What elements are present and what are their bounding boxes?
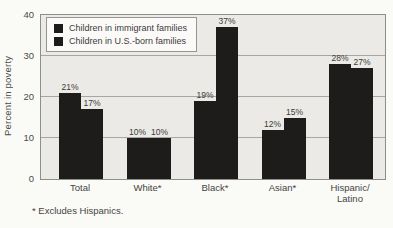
bar-value-label: 10% (151, 127, 168, 137)
legend: Children in immigrant families Children … (46, 17, 197, 52)
bar (329, 64, 351, 179)
bar-column: 15% (284, 107, 306, 180)
bar-value-label: 12% (264, 119, 281, 129)
x-category-label: Asian* (259, 182, 307, 204)
footnote: * Excludes Hispanics. (32, 205, 123, 216)
legend-item: Children in immigrant families (54, 23, 187, 33)
bar (127, 138, 149, 179)
y-tick-label: 30 (23, 50, 34, 61)
bar-column: 37% (216, 16, 238, 179)
x-category-label: White* (124, 182, 172, 204)
x-axis-labels: TotalWhite*Black*Asian*Hispanic/ Latino (40, 182, 384, 204)
bar-value-label: 15% (286, 107, 303, 117)
legend-label: Children in immigrant families (69, 23, 187, 33)
y-tick-label: 10 (23, 132, 34, 143)
bar (216, 27, 238, 179)
bar-column: 12% (262, 119, 284, 179)
bar-value-label: 27% (353, 57, 370, 67)
bar-column: 17% (81, 98, 103, 179)
bar-value-label: 37% (218, 16, 235, 26)
bar (351, 68, 373, 179)
bar-column: 10% (127, 127, 149, 179)
legend-swatch-usborn (54, 37, 63, 46)
bar-group: 10%10% (127, 127, 171, 179)
bar-value-label: 19% (196, 90, 213, 100)
bar (284, 118, 306, 180)
bar-value-label: 28% (331, 53, 348, 63)
poverty-bar-chart: Percent in poverty 010203040 21%17%10%10… (0, 0, 393, 228)
bar (194, 101, 216, 179)
bar-value-label: 10% (129, 127, 146, 137)
bar-value-label: 21% (61, 82, 78, 92)
x-category-label: Total (56, 182, 104, 204)
bar (59, 93, 81, 179)
bar-group: 21%17% (59, 82, 103, 179)
bar (149, 138, 171, 179)
x-category-label: Black* (191, 182, 239, 204)
y-axis-ticks: 010203040 (0, 14, 37, 178)
y-tick-label: 20 (23, 91, 34, 102)
bar-value-label: 17% (83, 98, 100, 108)
bar-group: 28%27% (329, 53, 373, 179)
bar-column: 28% (329, 53, 351, 179)
legend-swatch-immigrant (54, 24, 63, 33)
x-category-label: Hispanic/ Latino (326, 182, 374, 204)
bar-column: 10% (149, 127, 171, 179)
y-tick-label: 40 (23, 9, 34, 20)
legend-item: Children in U.S.-born families (54, 36, 187, 46)
bar-column: 27% (351, 57, 373, 179)
bar-group: 19%37% (194, 16, 238, 179)
bar-group: 12%15% (262, 107, 306, 180)
bar-column: 21% (59, 82, 81, 179)
bar (81, 109, 103, 179)
y-tick-label: 0 (29, 173, 34, 184)
bar-column: 19% (194, 90, 216, 179)
legend-label: Children in U.S.-born families (69, 36, 186, 46)
bar (262, 130, 284, 179)
plot-area: 21%17%10%10%19%37%12%15%28%27% Children … (40, 14, 386, 180)
